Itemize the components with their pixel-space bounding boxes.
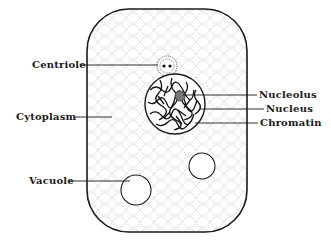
label-nucleus: Nucleus	[266, 103, 313, 115]
nucleolus-shape	[175, 91, 185, 101]
label-cytoplasm: Cytoplasm	[16, 111, 76, 123]
label-chromatin: Chromatin	[260, 117, 322, 129]
vacuole-shape	[121, 175, 151, 205]
label-nucleolus: Nucleolus	[259, 89, 317, 101]
label-centriole: Centriole	[32, 59, 86, 71]
vacuole-shape-2	[189, 153, 215, 179]
nucleus-shape	[145, 74, 205, 134]
cell-diagram: Centriole Cytoplasm Vacuole Nucleolus Nu…	[0, 0, 331, 243]
label-vacuole: Vacuole	[29, 175, 74, 187]
centriole-shape	[157, 56, 177, 76]
